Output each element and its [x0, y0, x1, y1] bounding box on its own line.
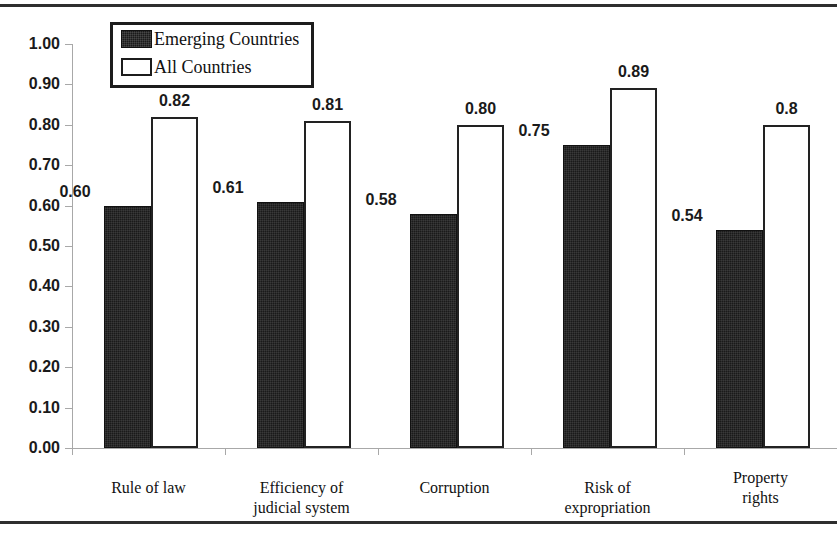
bar-emerging-countries: [716, 230, 763, 448]
bar-value-all-countries: 0.82: [146, 93, 204, 109]
bar-emerging-countries: [257, 202, 304, 448]
bar-value-emerging-countries: 0.60: [46, 184, 104, 200]
x-axis-label-line: Risk of: [521, 478, 694, 498]
x-axis-category-label: Rule of law: [62, 478, 235, 498]
bar-value-emerging-countries: 0.75: [505, 123, 563, 139]
bar-all-countries: [151, 117, 198, 448]
x-axis-label-line: Property: [674, 468, 837, 488]
bar-chart-figure: 0.000.100.200.300.400.500.600.700.800.90…: [0, 0, 837, 544]
x-axis-category-label: Corruption: [368, 478, 541, 498]
legend-item-all-countries: All Countries: [121, 58, 252, 76]
bar-value-all-countries: 0.81: [299, 97, 357, 113]
bar-all-countries: [610, 88, 657, 448]
x-axis-label-line: Efficiency of: [215, 478, 388, 498]
x-axis-label-line: rights: [674, 488, 837, 508]
legend-swatch-all-countries: [121, 58, 152, 76]
x-axis-label-line: Corruption: [368, 478, 541, 498]
bar-value-all-countries: 0.8: [758, 101, 816, 117]
bar-all-countries: [304, 121, 351, 448]
chart-legend: Emerging Countries All Countries: [110, 22, 314, 88]
x-axis-label-line: judicial system: [215, 498, 388, 518]
x-axis-label-line: expropriation: [521, 498, 694, 518]
bar-value-all-countries: 0.80: [452, 101, 510, 117]
bar-all-countries: [763, 125, 810, 448]
bar-all-countries: [457, 125, 504, 448]
x-axis-category-label: Efficiency ofjudicial system: [215, 478, 388, 518]
legend-item-emerging-countries: Emerging Countries: [121, 30, 299, 48]
x-axis-label-line: Rule of law: [62, 478, 235, 498]
x-axis-category-label: Risk ofexpropriation: [521, 478, 694, 518]
bar-emerging-countries: [104, 206, 151, 448]
x-axis-category-label: Propertyrights: [674, 468, 837, 508]
legend-label-emerging-countries: Emerging Countries: [152, 30, 299, 48]
legend-swatch-emerging-countries: [121, 30, 152, 48]
bar-emerging-countries: [410, 214, 457, 448]
bar-value-emerging-countries: 0.61: [199, 180, 257, 196]
legend-label-all-countries: All Countries: [152, 58, 252, 76]
bar-value-emerging-countries: 0.54: [658, 208, 716, 224]
bar-value-all-countries: 0.89: [605, 64, 663, 80]
bar-value-emerging-countries: 0.58: [352, 192, 410, 208]
bar-emerging-countries: [563, 145, 610, 448]
